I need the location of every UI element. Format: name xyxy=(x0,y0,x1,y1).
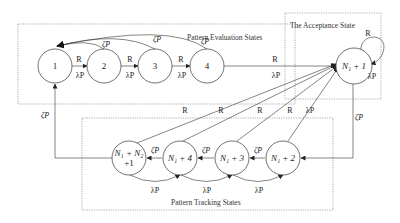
state-3: 3 xyxy=(138,49,172,83)
svg-text:λP: λP xyxy=(306,106,315,115)
svg-text:R: R xyxy=(287,106,293,115)
region-evaluation-title: Pattern Evaluation States xyxy=(187,33,262,42)
region-acceptance-title: The Acceptance State xyxy=(290,21,356,30)
svg-text:R: R xyxy=(76,55,82,64)
svg-text:ζP: ζP xyxy=(41,111,49,120)
svg-text:λP: λP xyxy=(255,186,264,195)
svg-text:+1: +1 xyxy=(124,158,134,168)
svg-text:3: 3 xyxy=(153,61,158,71)
state-n1-n2-plus-1: N₁ + N₂ +1 xyxy=(112,141,146,175)
svg-text:λP: λP xyxy=(178,71,187,80)
svg-text:ζP: ζP xyxy=(202,146,210,155)
svg-text:λP: λP xyxy=(151,186,160,195)
svg-text:R: R xyxy=(127,55,133,64)
svg-text:λP: λP xyxy=(76,71,85,80)
svg-text:ζP: ζP xyxy=(254,146,262,155)
svg-text:R: R xyxy=(365,29,371,38)
svg-text:ζP: ζP xyxy=(153,35,161,44)
svg-text:λP: λP xyxy=(368,72,377,81)
state-n1-plus-3: N₁ + 3 xyxy=(215,141,249,175)
svg-text:R: R xyxy=(257,106,263,115)
svg-text:λP: λP xyxy=(126,71,135,80)
svg-text:2: 2 xyxy=(102,61,107,71)
svg-text:R: R xyxy=(218,106,224,115)
svg-text:N₁ + 3: N₁ + 3 xyxy=(219,153,245,163)
svg-text:ζP: ζP xyxy=(201,37,209,46)
svg-text:R: R xyxy=(272,55,278,64)
state-2: 2 xyxy=(87,49,121,83)
state-n1-plus-2: N₁ + 2 xyxy=(266,141,300,175)
svg-text:λP: λP xyxy=(203,186,212,195)
svg-text:4: 4 xyxy=(205,61,210,71)
svg-text:N₁ + 4: N₁ + 4 xyxy=(167,153,193,163)
svg-text:N₁ + 2: N₁ + 2 xyxy=(270,153,296,163)
state-1: 1 xyxy=(38,49,72,83)
svg-text:R: R xyxy=(182,106,188,115)
svg-text:N₁ + 1: N₁ + 1 xyxy=(341,61,366,71)
svg-text:ζP: ζP xyxy=(151,146,159,155)
svg-text:R: R xyxy=(178,55,184,64)
region-tracking-title: Pattern Tracking States xyxy=(171,198,241,207)
svg-text:ζP: ζP xyxy=(355,113,363,122)
svg-text:N₁ + N₂: N₁ + N₂ xyxy=(114,148,144,158)
svg-text:ζP: ζP xyxy=(102,40,110,49)
svg-text:1: 1 xyxy=(53,61,58,71)
svg-text:λP: λP xyxy=(272,71,281,80)
state-acceptance: N₁ + 1 xyxy=(336,48,372,84)
state-4: 4 xyxy=(190,49,224,83)
state-diagram: Pattern Evaluation States The Acceptance… xyxy=(0,0,400,223)
state-n1-plus-4: N₁ + 4 xyxy=(163,141,197,175)
